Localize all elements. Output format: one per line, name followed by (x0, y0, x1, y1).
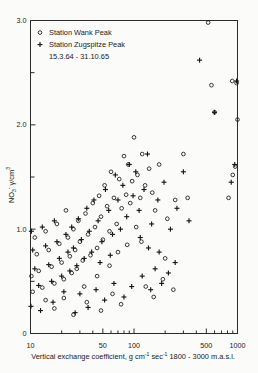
data-point-wank (111, 292, 115, 296)
data-point-zugspitze (61, 289, 66, 294)
data-point-zugspitze (181, 169, 186, 174)
data-point-zugspitze (73, 310, 78, 315)
data-point-wank (165, 217, 169, 221)
chart-figure: 1050100500100001.02.03.0NO3- γ/cm3Vertic… (0, 0, 258, 373)
data-point-wank (163, 257, 167, 261)
data-point-zugspitze (86, 305, 91, 310)
data-point-wank (143, 183, 147, 187)
data-point-zugspitze (149, 221, 154, 226)
data-point-wank (230, 79, 234, 83)
data-point-zugspitze (212, 110, 217, 115)
data-point-zugspitze (108, 253, 113, 258)
data-point-wank (82, 285, 86, 289)
data-point-zugspitze (94, 287, 99, 292)
data-point-zugspitze (153, 266, 158, 271)
data-point-wank (157, 163, 161, 167)
legend-date-range: 15.3.64 - 31.10.65 (49, 52, 109, 61)
data-point-zugspitze (168, 227, 173, 232)
data-point-wank (173, 198, 177, 202)
data-point-wank (161, 277, 165, 281)
x-tick-label: 10 (27, 341, 35, 350)
data-point-wank (84, 212, 88, 216)
data-point-zugspitze (138, 235, 143, 240)
data-point-wank (53, 307, 57, 311)
data-point-wank (122, 154, 126, 158)
data-point-zugspitze (103, 187, 108, 192)
data-point-zugspitze (173, 260, 178, 265)
data-point-wank (140, 152, 144, 156)
data-point-wank (109, 170, 113, 174)
data-point-wank (62, 277, 66, 281)
data-point-zugspitze (99, 239, 104, 244)
data-point-wank (55, 222, 59, 226)
data-point-zugspitze (113, 172, 118, 177)
data-point-wank (44, 298, 48, 302)
data-point-wank (35, 252, 39, 256)
data-point-wank (58, 242, 62, 246)
data-point-wank (105, 204, 109, 208)
data-point-wank (44, 229, 48, 233)
data-point-wank (31, 290, 35, 294)
data-point-wank (108, 229, 112, 233)
data-point-wank (115, 222, 119, 226)
data-point-wank (119, 302, 123, 306)
data-point-zugspitze (98, 260, 103, 265)
y-tick-label: 2.0 (17, 120, 27, 129)
data-point-zugspitze (146, 245, 151, 250)
data-point-zugspitze (121, 294, 126, 299)
data-point-zugspitze (57, 256, 62, 261)
data-point-wank (60, 261, 64, 265)
data-point-wank (108, 264, 112, 268)
data-point-zugspitze (54, 239, 59, 244)
data-point-wank (132, 136, 136, 140)
data-point-zugspitze (145, 152, 150, 157)
data-point-wank (172, 288, 176, 292)
data-point-zugspitze (162, 180, 167, 185)
data-point-zugspitze (46, 262, 51, 267)
data-point-zugspitze (142, 187, 147, 192)
data-point-zugspitze (96, 218, 101, 223)
data-point-zugspitze (111, 281, 116, 286)
data-point-wank (68, 254, 72, 258)
data-point-zugspitze (77, 291, 82, 296)
data-point-zugspitze (84, 206, 89, 211)
data-point-wank (124, 193, 128, 197)
data-point-wank (50, 265, 54, 269)
data-point-wank (64, 209, 68, 213)
data-point-wank (112, 196, 116, 200)
data-point-wank (117, 177, 121, 181)
data-point-wank (47, 248, 51, 252)
data-point-zugspitze (131, 193, 136, 198)
data-point-wank (140, 240, 144, 244)
data-point-zugspitze (140, 274, 145, 279)
x-axis-label: Vertical exchange coefficient, g cm-1 se… (31, 351, 235, 361)
data-point-zugspitze (159, 281, 164, 286)
data-point-wank (33, 236, 37, 240)
y-tick-label: 1.0 (17, 225, 27, 234)
data-point-wank (134, 225, 138, 229)
data-point-zugspitze (118, 227, 123, 232)
scatter-plot: 1050100500100001.02.03.0NO3- γ/cm3Vertic… (0, 0, 258, 373)
x-tick-label: 100 (128, 341, 140, 350)
data-point-zugspitze (63, 232, 68, 237)
data-point-zugspitze (79, 237, 84, 242)
data-point-zugspitze (120, 183, 125, 188)
data-point-zugspitze (133, 169, 138, 174)
data-point-zugspitze (82, 256, 87, 261)
y-tick-label: 0 (23, 329, 27, 338)
data-point-wank (95, 246, 99, 250)
data-point-wank (182, 152, 186, 156)
data-point-zugspitze (49, 279, 54, 284)
data-point-zugspitze (197, 58, 202, 63)
data-point-zugspitze (174, 206, 179, 211)
data-point-zugspitze (43, 243, 48, 248)
data-point-zugspitze (51, 300, 56, 305)
data-point-zugspitze (148, 287, 153, 292)
data-point-zugspitze (67, 268, 72, 273)
legend-label-zugspitze: Station Zugspitze Peak (49, 40, 125, 49)
data-point-wank (231, 173, 235, 177)
data-point-wank (116, 250, 120, 254)
data-point-wank (130, 179, 134, 183)
x-tick-label: 500 (200, 341, 212, 350)
y-tick-label: 3.0 (17, 16, 27, 25)
